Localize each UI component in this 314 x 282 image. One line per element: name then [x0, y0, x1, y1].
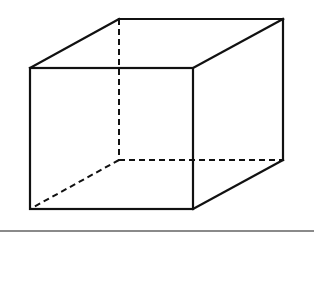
solid-edges — [30, 19, 283, 209]
edge-bottom-right-depth — [193, 160, 283, 209]
edge-top-right-depth — [193, 19, 283, 68]
hidden-edge-bottom-left-depth — [30, 160, 119, 209]
front-face — [30, 68, 193, 209]
edge-top-left-depth — [30, 19, 119, 68]
cube-diagram — [0, 0, 314, 282]
